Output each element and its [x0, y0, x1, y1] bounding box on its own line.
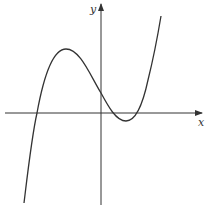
- function-graph: x y: [0, 0, 206, 209]
- y-axis-label: y: [89, 3, 97, 16]
- x-axis-label: x: [198, 116, 205, 129]
- cubic-curve: [24, 16, 161, 203]
